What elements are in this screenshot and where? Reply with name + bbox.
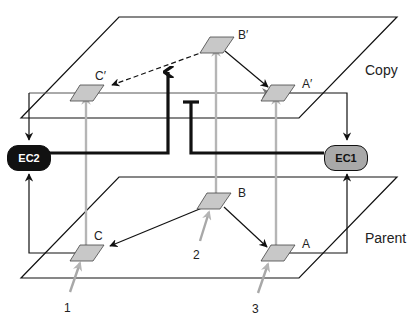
node-b xyxy=(197,193,231,209)
node-label-a-prime: A′ xyxy=(302,78,312,90)
c-to-ec2-link xyxy=(29,174,80,253)
input-arrow-2 xyxy=(200,212,209,241)
a-to-ec1-link xyxy=(283,174,347,253)
ec2-node: EC2 xyxy=(7,145,51,171)
copy-plane xyxy=(21,17,397,118)
node-b-prime xyxy=(200,37,234,53)
ec1-node: EC1 xyxy=(324,145,368,171)
ec1-inhibition-line xyxy=(191,102,324,153)
parent-plane xyxy=(21,177,397,278)
input-label-2: 2 xyxy=(193,249,200,261)
b-to-a-link xyxy=(224,207,267,247)
node-label-b: B xyxy=(238,187,246,199)
plane-label-copy: Copy xyxy=(365,63,398,77)
ec2-label: EC2 xyxy=(18,152,39,164)
a-prime-to-ec1-link xyxy=(283,93,347,140)
plane-label-parent: Parent xyxy=(365,231,406,245)
ec2-activation-arrow xyxy=(45,72,168,153)
node-c-prime xyxy=(70,85,104,101)
b-to-c-link xyxy=(110,208,202,246)
ec1-label: EC1 xyxy=(335,152,356,164)
node-a-prime xyxy=(261,85,295,101)
node-label-c: C xyxy=(94,230,103,242)
node-label-c-prime: C′ xyxy=(95,70,106,82)
node-a xyxy=(261,245,295,261)
input-label-3: 3 xyxy=(252,303,259,315)
node-label-a: A xyxy=(302,238,310,250)
node-c xyxy=(70,245,104,261)
b-prime-to-a-prime-link xyxy=(225,51,268,87)
node-label-b-prime: B′ xyxy=(238,29,248,41)
input-label-1: 1 xyxy=(64,302,71,314)
b-prime-to-c-prime-dashed xyxy=(112,51,206,85)
